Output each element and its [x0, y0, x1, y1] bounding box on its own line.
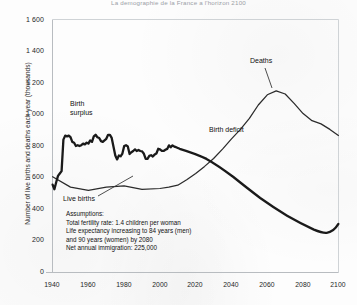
assumptions-heading: Assumptions:: [66, 210, 191, 219]
deaths-curve: [53, 91, 339, 190]
plot-area: [0, 0, 357, 305]
birth-surplus-label: Birth surplus: [70, 100, 93, 117]
deaths-label: Deaths: [250, 57, 272, 66]
chart-figure: La demographie de la France a l'horizon …: [0, 0, 357, 305]
birth-deficit-label: Birth deficit: [209, 126, 244, 135]
assumptions-line-2: Life expectancy increasing to 84 years (…: [66, 227, 191, 236]
assumptions-block: Assumptions: Total fertility rate: 1.4 c…: [66, 210, 191, 253]
birth-surplus-label-line2: surplus: [70, 109, 93, 116]
deaths-leader-line: [265, 68, 272, 88]
live-births-label: Live births: [63, 195, 95, 204]
assumptions-line-4: Net annual immigration: 225,000: [66, 244, 191, 253]
assumptions-line-3: and 90 years (women) by 2080: [66, 236, 191, 245]
birth-surplus-label-line1: Birth: [70, 100, 84, 107]
assumptions-line-1: Total fertility rate: 1.4 children per w…: [66, 219, 191, 228]
